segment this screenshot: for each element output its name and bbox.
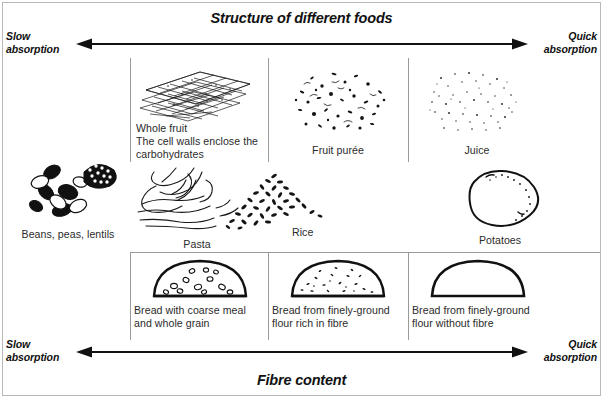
divider-v-r1-c2 xyxy=(268,58,269,162)
cell-juice: Juice xyxy=(412,60,542,160)
bottom-axis-double-arrow-icon xyxy=(76,344,528,360)
caption-bread-fine-without-fibre: Bread from finely-ground flour without f… xyxy=(412,304,548,330)
fine-speckle-blob-icon xyxy=(424,64,524,134)
cell-fruit-puree: Fruit purée xyxy=(272,60,404,160)
top-axis-left-label-line2: absorption xyxy=(6,43,59,55)
caption-bread-coarse-meal: Bread with coarse meal and whole grain xyxy=(134,304,264,330)
potato-icon xyxy=(456,168,546,230)
divider-v-r1-c3 xyxy=(408,58,409,162)
bottom-axis-left-label-line1: Slow xyxy=(6,338,30,350)
cell-potatoes: Potatoes xyxy=(430,168,570,254)
bottom-axis-right-label-line2: absorption xyxy=(544,351,597,363)
caption-bread-fine-with-fibre: Bread from finely-ground flour rich in f… xyxy=(272,304,404,330)
bread-loaf-speckled-icon xyxy=(286,256,390,300)
caption-beans-peas-lentils: Beans, peas, lentils xyxy=(2,228,134,241)
divider-v-r3-c3 xyxy=(408,252,409,340)
top-axis-double-arrow-icon xyxy=(76,36,528,52)
cell-bread-fine-without-fibre: Bread from finely-ground flour without f… xyxy=(412,254,548,340)
legumes-icon xyxy=(24,162,120,224)
coarse-speckle-blob-icon xyxy=(288,62,396,136)
bottom-title: Fibre content xyxy=(0,372,603,388)
cell-rice: Rice xyxy=(216,170,336,252)
cell-wall-lattice-icon xyxy=(138,64,258,120)
top-axis-left-label-line1: Slow xyxy=(6,30,30,42)
cell-whole-fruit: Whole fruit The cell walls enclose the c… xyxy=(134,60,264,160)
divider-v-r3-c1 xyxy=(130,252,131,340)
top-axis-right-label-line2: absorption xyxy=(544,43,597,55)
top-axis-right-label: Quick absorption xyxy=(523,30,597,55)
cell-beans-peas-lentils: Beans, peas, lentils xyxy=(6,162,130,248)
bottom-axis-left-label-line2: absorption xyxy=(6,351,59,363)
bread-loaf-plain-icon xyxy=(426,256,530,300)
caption-rice: Rice xyxy=(292,226,336,239)
bottom-axis: Slow absorption Quick absorption xyxy=(0,338,603,372)
top-title: Structure of different foods xyxy=(0,10,603,26)
caption-potatoes: Potatoes xyxy=(430,234,570,247)
divider-v-r3-c2 xyxy=(268,252,269,340)
bottom-axis-left-label: Slow absorption xyxy=(6,338,80,363)
bread-loaf-coarse-icon xyxy=(148,256,252,300)
bottom-axis-right-label-line1: Quick xyxy=(568,338,597,350)
bottom-axis-right-label: Quick absorption xyxy=(523,338,597,363)
cell-bread-coarse-meal: Bread with coarse meal and whole grain xyxy=(134,254,266,340)
cell-bread-fine-with-fibre: Bread from finely-ground flour rich in f… xyxy=(272,254,404,340)
diagram-canvas: Structure of different foods Slow absorp… xyxy=(0,0,603,398)
caption-juice: Juice xyxy=(412,144,542,157)
rice-grains-icon xyxy=(224,170,328,232)
divider-v-r1-c1 xyxy=(130,58,131,162)
content-grid: Whole fruit The cell walls enclose the c… xyxy=(0,58,603,340)
caption-fruit-puree: Fruit purée xyxy=(272,144,404,157)
top-axis-left-label: Slow absorption xyxy=(6,30,80,55)
top-axis-right-label-line1: Quick xyxy=(568,30,597,42)
caption-whole-fruit: Whole fruit The cell walls enclose the c… xyxy=(136,122,262,161)
